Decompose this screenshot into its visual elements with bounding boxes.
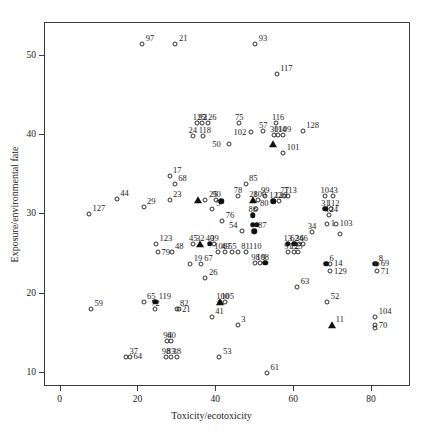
data-point-label: 128: [306, 121, 319, 130]
data-point-label: 29: [147, 197, 156, 206]
data-point-marker: [264, 370, 269, 375]
data-point-label: 80: [260, 199, 269, 208]
data-point-marker: [173, 41, 178, 46]
data-point-marker: [153, 241, 158, 246]
data-point-marker: [140, 41, 145, 46]
data-point-label: 9: [261, 253, 265, 262]
y-axis-tick: [39, 55, 44, 56]
x-axis-tick-label: 20: [133, 394, 143, 404]
data-point-label: 54: [229, 221, 238, 230]
data-point-label: 44: [120, 189, 129, 198]
data-point-label: 32: [196, 234, 205, 243]
data-point-marker: [127, 354, 132, 359]
data-point-label: 123: [159, 234, 172, 243]
data-point-marker: [235, 323, 240, 328]
data-point-label: 103: [340, 219, 353, 228]
data-point-label: 21: [179, 34, 188, 43]
data-point-label: 34: [308, 222, 317, 231]
data-point-marker: [227, 142, 232, 147]
data-point-marker: [198, 262, 203, 267]
data-point-marker: [243, 181, 248, 186]
data-point-label: 104: [379, 307, 392, 316]
data-point-marker: [248, 130, 253, 135]
y-axis-tick: [39, 372, 44, 373]
data-point-marker: [114, 196, 119, 201]
data-point-marker: [373, 326, 378, 331]
data-point-label: 110: [249, 242, 261, 251]
data-point-label: 30: [270, 125, 279, 134]
data-point-marker: [235, 250, 240, 255]
data-point-marker: [86, 212, 91, 217]
data-point-marker: [295, 284, 300, 289]
data-point-label: 68: [178, 174, 187, 183]
data-point-label: 60: [167, 331, 176, 340]
data-point-marker: [167, 198, 172, 203]
data-point-label: 25: [294, 242, 303, 251]
data-point-marker: [269, 140, 277, 147]
data-point-marker: [328, 269, 333, 274]
data-point-label: 21: [182, 305, 191, 314]
data-point-label: 26: [209, 268, 218, 277]
x-axis-label: Toxicity/ecotoxicity: [0, 410, 423, 421]
data-point-label: 64: [133, 352, 142, 361]
data-point-marker: [220, 218, 225, 223]
data-point-label: 23: [173, 190, 182, 199]
data-point-marker: [210, 206, 215, 211]
data-point-label: 78: [234, 186, 243, 195]
data-point-marker: [328, 261, 333, 266]
data-point-label: 5: [216, 199, 220, 208]
data-point-label: 127: [92, 204, 105, 213]
x-axis-tick: [137, 386, 138, 391]
scatter-plot-figure: 9721931171259212675116571282411810211410…: [0, 0, 423, 442]
x-axis-tick: [371, 386, 372, 391]
y-axis-tick: [39, 134, 44, 135]
data-point-label: 59: [94, 299, 103, 308]
data-point-label: 55: [228, 242, 237, 251]
data-point-label: 11: [336, 315, 344, 324]
y-axis-tick-label: 10: [27, 367, 37, 377]
data-point-marker: [203, 198, 208, 203]
x-axis-tick-label: 40: [211, 394, 221, 404]
x-axis-tick-label: 80: [366, 394, 376, 404]
data-point-label: 10: [321, 186, 330, 195]
data-point-label: 117: [280, 64, 292, 73]
data-point-label: 124: [325, 205, 338, 214]
data-point-marker: [375, 261, 380, 266]
data-point-label: 85: [249, 174, 258, 183]
data-point-label: 24: [189, 126, 198, 135]
data-point-marker: [167, 173, 172, 178]
data-point-label: 93: [259, 34, 268, 43]
data-point-label: 109: [279, 125, 292, 134]
data-point-marker: [243, 250, 248, 255]
data-point-label: 118: [199, 126, 211, 135]
data-point-marker: [240, 229, 245, 234]
y-axis-tick: [39, 293, 44, 294]
data-point-marker: [169, 250, 174, 255]
data-point-label: 52: [331, 292, 340, 301]
data-point-label: 48: [175, 242, 184, 251]
y-axis-tick-label: 30: [27, 208, 37, 218]
data-point-label: 70: [379, 321, 388, 330]
data-point-label: 61: [270, 363, 279, 372]
data-point-marker: [203, 275, 208, 280]
data-point-marker: [281, 150, 286, 155]
data-point-label: 53: [223, 347, 232, 356]
data-point-marker: [373, 315, 378, 320]
y-axis-tick-label: 20: [27, 288, 37, 298]
data-point-marker: [141, 204, 146, 209]
data-point-label: 57: [259, 121, 268, 130]
data-point-marker: [274, 72, 279, 77]
x-axis-tick: [215, 386, 216, 391]
data-point-label: 63: [301, 277, 310, 286]
data-point-marker: [155, 250, 160, 255]
data-point-label: 38: [173, 347, 182, 356]
data-point-marker: [216, 298, 224, 305]
y-axis-tick-label: 40: [27, 129, 37, 139]
data-point-marker: [300, 128, 305, 133]
data-point-label: 50: [212, 140, 221, 149]
data-point-label: 120: [275, 191, 288, 200]
plot-area: 9721931171259212675116571282411810211410…: [44, 22, 410, 386]
data-point-label: 129: [334, 267, 347, 276]
data-point-label: 72: [151, 299, 160, 308]
data-point-label: 87: [258, 221, 267, 230]
